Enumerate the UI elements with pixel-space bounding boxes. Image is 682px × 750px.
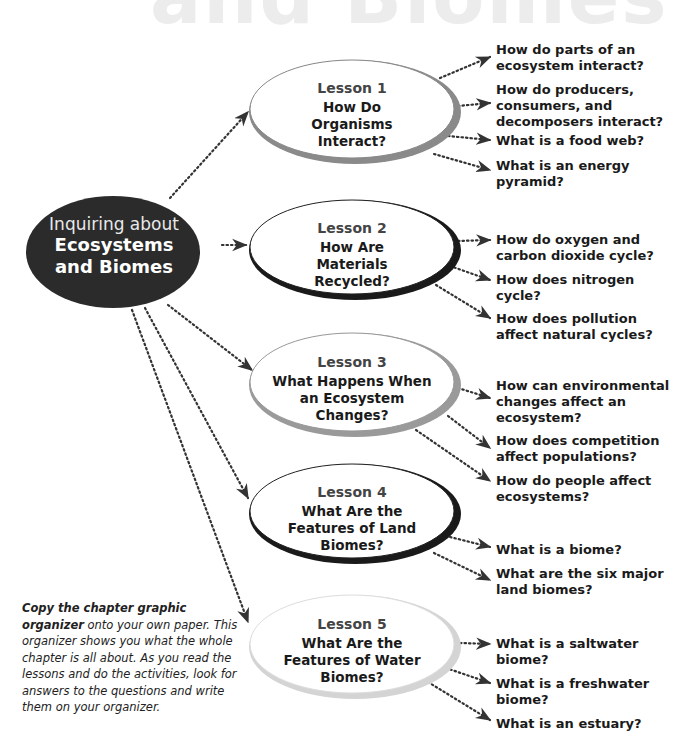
lesson1-question: How Do Organisms Interact? xyxy=(252,99,452,150)
lesson2-question: How Are Materials Recycled? xyxy=(252,239,452,290)
question-item: What is a biome? xyxy=(496,542,682,558)
center-line1: Inquiring about xyxy=(30,214,198,234)
lesson3-node: Lesson 3 What Happens When an Ecosystem … xyxy=(252,354,452,424)
question-item: How do parts of an ecosystem interact? xyxy=(496,42,682,74)
link-center-lesson1 xyxy=(170,112,248,198)
center-line3: and Biomes xyxy=(30,256,198,278)
lesson2-node: Lesson 2 How Are Materials Recycled? xyxy=(252,220,452,290)
lesson3-question: What Happens When an Ecosystem Changes? xyxy=(252,373,452,424)
question-item: How do producers, consumers, and decompo… xyxy=(496,82,682,130)
lesson4-node: Lesson 4 What Are the Features of Land B… xyxy=(252,484,452,554)
center-line2: Ecosystems xyxy=(30,234,198,256)
center-topic: Inquiring about Ecosystems and Biomes xyxy=(30,196,198,308)
question-item: How can environmental changes affect an … xyxy=(496,378,682,426)
question-item: What is an estuary? xyxy=(496,716,682,732)
lesson2-title: Lesson 2 xyxy=(252,220,452,236)
question-item: What is a food web? xyxy=(496,133,682,149)
question-item: What is a saltwater biome? xyxy=(496,636,682,668)
question-item: What is a freshwater biome? xyxy=(496,676,682,708)
lesson1-title: Lesson 1 xyxy=(252,80,452,96)
link-center-lesson3 xyxy=(168,305,252,370)
question-item: How do oxygen and carbon dioxide cycle? xyxy=(496,232,682,264)
lesson3-title: Lesson 3 xyxy=(252,354,452,370)
link-center-lesson4 xyxy=(145,308,248,498)
question-item: What are the six major land biomes? xyxy=(496,566,682,598)
question-item: How do people affect ecosystems? xyxy=(496,473,682,505)
lesson5-title: Lesson 5 xyxy=(252,616,452,632)
lesson5-question: What Are the Features of Water Biomes? xyxy=(252,635,452,686)
question-item: What is an energy pyramid? xyxy=(496,158,682,190)
question-item: How does competition affect populations? xyxy=(496,433,682,465)
question-item: How does nitrogen cycle? xyxy=(496,272,682,304)
lesson5-node: Lesson 5 What Are the Features of Water … xyxy=(252,616,452,686)
lesson4-title: Lesson 4 xyxy=(252,484,452,500)
lesson1-node: Lesson 1 How Do Organisms Interact? xyxy=(252,80,452,150)
lesson4-question: What Are the Features of Land Biomes? xyxy=(252,503,452,554)
question-item: How does pollution affect natural cycles… xyxy=(496,311,682,343)
instructions-note: Copy the chapter graphic organizer onto … xyxy=(22,600,244,716)
